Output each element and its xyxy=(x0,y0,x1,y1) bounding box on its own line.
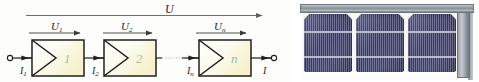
current-label-2: I2 xyxy=(92,66,99,76)
solar-cell xyxy=(408,14,456,76)
stage2-voltage-symbol: U xyxy=(121,20,129,32)
solar-cell-row xyxy=(304,14,456,76)
current-label-total: I xyxy=(263,66,266,76)
stage1-voltage-subscript: 1 xyxy=(59,26,63,34)
current-subscript-1: 1 xyxy=(23,70,27,78)
current-label-n: In xyxy=(187,66,194,76)
stagen-voltage-label: Un xyxy=(214,21,225,32)
stage-block-1-number: 1 xyxy=(64,51,71,67)
series-block-diagram: U U1 U2 Un 1 2 n I1 I2 In I xyxy=(0,0,290,82)
stage-block-2 xyxy=(104,40,156,76)
stagen-voltage-symbol: U xyxy=(214,20,222,32)
solar-cell xyxy=(356,14,404,76)
stage2-voltage-label: U2 xyxy=(121,21,132,32)
current-symbol-total: I xyxy=(263,65,266,76)
left-terminal-node xyxy=(7,55,12,60)
stage1-voltage-symbol: U xyxy=(51,20,59,32)
stage-block-2-number: 2 xyxy=(136,51,143,67)
stage-block-n-number: n xyxy=(231,51,238,67)
current-subscript-2: 2 xyxy=(95,70,99,78)
pv-module-photo xyxy=(292,0,479,82)
stage1-voltage-label: U1 xyxy=(51,21,62,32)
current-label-1: I1 xyxy=(20,66,27,76)
figure-root: U U1 U2 Un 1 2 n I1 I2 In I xyxy=(0,0,479,82)
stage-block-n xyxy=(199,40,251,76)
right-terminal-node xyxy=(271,55,276,60)
stage-block-1 xyxy=(32,40,84,76)
total-voltage-label: U xyxy=(165,3,174,15)
stage2-voltage-subscript: 2 xyxy=(129,26,133,34)
module-frame-top xyxy=(300,4,474,13)
current-subscript-n: n xyxy=(190,70,194,78)
module-frame-right xyxy=(457,6,470,78)
diagram-canvas xyxy=(0,0,290,82)
module-bottom-edge xyxy=(302,72,460,80)
solar-cell xyxy=(304,14,352,76)
stagen-voltage-subscript: n xyxy=(222,26,226,34)
